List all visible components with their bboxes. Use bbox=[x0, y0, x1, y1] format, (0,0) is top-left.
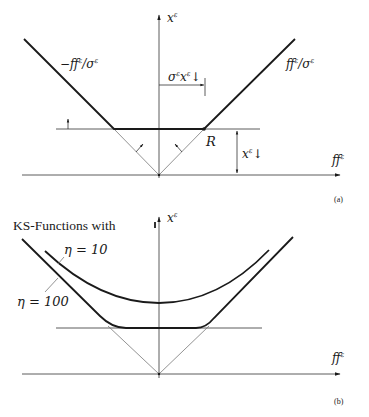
y-axis-label-a: xε bbox=[167, 11, 178, 25]
x-axis-label-a: ffε bbox=[331, 153, 345, 167]
panel-b: KS-Functions with xε ffε η = 10 η = 100 … bbox=[13, 211, 345, 406]
height-dim-label: xε↓ bbox=[242, 147, 263, 161]
normal-arrow-left bbox=[136, 144, 143, 152]
panel-b-title: KS-Functions with bbox=[13, 218, 116, 233]
panel-a: xε ffε −ffε/σε ffε/σε σεxε↓ xε↓ R (a) bbox=[22, 11, 345, 204]
point-r-marker bbox=[202, 127, 206, 131]
normal-arrow-right bbox=[175, 144, 182, 152]
eta-10-label: η = 10 bbox=[64, 242, 108, 257]
origin-marker bbox=[158, 174, 160, 176]
v-line-left-b bbox=[108, 326, 159, 374]
caption-a: (a) bbox=[334, 195, 343, 204]
x-axis-label-b: ffε bbox=[331, 351, 345, 365]
y-axis-label-b: xε bbox=[167, 211, 178, 225]
point-r-label: R bbox=[205, 134, 216, 149]
v-line-right-b bbox=[159, 326, 209, 374]
envelope-path bbox=[24, 39, 295, 129]
leader-eta-100 bbox=[45, 278, 58, 292]
caption-b: (b) bbox=[334, 397, 344, 406]
width-dim-label: σεxε↓ bbox=[168, 70, 201, 84]
leader-eta-10 bbox=[58, 257, 64, 264]
ks-function-diagram: xε ffε −ffε/σε ffε/σε σεxε↓ xε↓ R (a) KS… bbox=[0, 0, 369, 417]
origin-marker-b bbox=[158, 373, 160, 375]
left-line-label: −ffε/σε bbox=[60, 57, 99, 71]
right-line-label: ffε/σε bbox=[285, 57, 315, 71]
ks-curve-eta-100 bbox=[22, 237, 293, 328]
eta-100-label: η = 100 bbox=[17, 294, 69, 309]
